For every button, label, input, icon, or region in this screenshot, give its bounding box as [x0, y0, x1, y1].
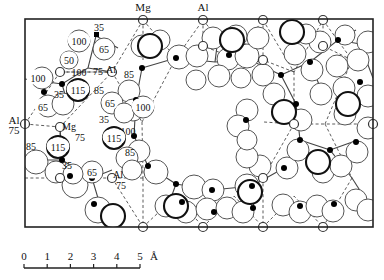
height-label: 65: [102, 95, 119, 110]
height-label-text: 115: [51, 142, 66, 153]
height-label: 100: [132, 99, 155, 114]
height-label: Al: [106, 64, 116, 75]
height-label-text: 100: [72, 36, 87, 47]
height-label-text: 75: [93, 66, 103, 77]
height-label-text: 65: [38, 102, 48, 113]
height-label-text: 85: [94, 85, 104, 96]
height-label-text: Mg: [62, 121, 76, 132]
height-label: 115: [103, 130, 126, 145]
height-label: Mg: [62, 121, 76, 132]
scale-tick-label: 4: [114, 250, 120, 262]
height-label-text: 115: [71, 85, 86, 96]
scale-tick-label: 0: [21, 250, 27, 262]
height-label-text: 35: [54, 89, 64, 100]
crystal-structure-diagram: MgAlAl75 35100655010075Al851003511585656…: [0, 0, 384, 280]
scale-tick-label: 3: [91, 250, 97, 262]
height-label: 75: [116, 180, 126, 191]
height-label-text: Al: [113, 169, 123, 180]
height-label-text: 100: [31, 73, 46, 84]
height-label-text: 100: [136, 102, 151, 113]
scale-bar-unit: Å: [150, 250, 158, 262]
boundary-label-al-left-height: 75: [9, 124, 21, 136]
height-label: 100: [72, 67, 87, 78]
height-label: 35: [94, 22, 104, 33]
height-label-text: 65: [99, 44, 109, 55]
height-label: 65: [96, 41, 113, 56]
height-label-text: 65: [87, 167, 97, 178]
height-label: 115: [47, 139, 70, 154]
height-label-text: 115: [107, 133, 122, 144]
height-label-text: 100: [72, 67, 87, 78]
height-label-text: 35: [94, 22, 104, 33]
height-label: 85: [26, 141, 36, 152]
boundary-label-mg-top: Mg: [135, 1, 151, 13]
height-label-text: 75: [75, 132, 85, 143]
height-label: 75: [75, 132, 85, 143]
height-label: 65: [35, 99, 52, 114]
height-label: 65: [84, 164, 101, 179]
scale-tick-label: 1: [44, 250, 50, 262]
height-label: 100: [27, 70, 50, 85]
height-label-text: 65: [105, 98, 115, 109]
boundary-label-al-top: Al: [198, 1, 209, 13]
height-label-text: 85: [125, 147, 135, 158]
height-label: 100: [68, 33, 91, 48]
height-label: 35: [54, 89, 64, 100]
height-label: 75: [93, 66, 103, 77]
height-label-text: 50: [64, 55, 74, 66]
structure-content: [24, 20, 379, 228]
scale-bar: 012345 Å: [21, 250, 158, 268]
height-label: 35: [62, 160, 72, 171]
al-site-top: [199, 16, 208, 25]
height-label-text: 75: [116, 180, 126, 191]
oxygen-atoms: [24, 24, 379, 223]
height-label-text: 85: [26, 141, 36, 152]
scale-bar-numbers: 012345: [21, 250, 143, 262]
height-label-text: 35: [99, 114, 109, 125]
mg-site-top: [139, 16, 148, 25]
figure-container: MgAlAl75 35100655010075Al851003511585656…: [0, 0, 384, 280]
height-label-text: 85: [124, 69, 134, 80]
height-label: 85: [94, 85, 104, 96]
height-label-text: Al: [106, 64, 116, 75]
height-label: 115: [67, 82, 90, 97]
height-label: 35: [99, 114, 109, 125]
height-label: 85: [125, 147, 135, 158]
height-label: Al: [113, 169, 123, 180]
height-label-text: 35: [62, 160, 72, 171]
scale-tick-label: 2: [68, 250, 74, 262]
scale-tick-label: 5: [137, 250, 143, 262]
height-label: 50: [61, 52, 78, 67]
height-label: 85: [124, 69, 134, 80]
